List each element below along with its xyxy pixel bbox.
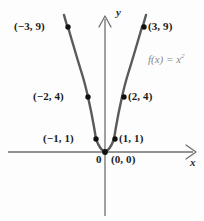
data-point-0-0 <box>102 149 108 155</box>
x-axis-label: x <box>190 156 196 168</box>
point-label-0-0: (0, 0) <box>111 153 135 165</box>
parabola-graph-figure: (−3, 9) (3, 9) (−2, 4) (2, 4) (−1, 1) (1… <box>0 0 204 221</box>
data-point-2-4 <box>121 94 126 99</box>
point-label-3-9: (3, 9) <box>148 20 172 32</box>
point-label-1-1: (1, 1) <box>119 132 143 144</box>
graph-canvas <box>0 0 204 221</box>
data-point-neg2-4 <box>85 94 90 99</box>
origin-label: 0 <box>96 153 102 165</box>
data-point-neg3-9 <box>65 24 70 29</box>
data-point-3-9 <box>141 24 146 29</box>
y-axis-label: y <box>116 6 121 18</box>
point-label-neg3-9: (−3, 9) <box>14 20 45 32</box>
data-point-neg1-1 <box>93 136 98 141</box>
function-equation-base: f(x) = x <box>148 53 181 65</box>
function-equation-label: f(x) = x2 <box>148 52 185 65</box>
data-point-1-1 <box>112 136 117 141</box>
function-equation-exponent: 2 <box>181 52 185 60</box>
point-label-2-4: (2, 4) <box>128 90 152 102</box>
point-label-neg1-1: (−1, 1) <box>43 132 74 144</box>
point-label-neg2-4: (−2, 4) <box>33 90 64 102</box>
